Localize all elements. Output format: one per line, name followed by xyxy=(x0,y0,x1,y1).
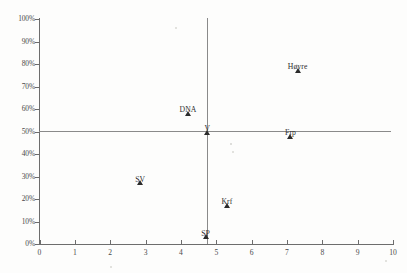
y-tick-label-wrap: 100% xyxy=(0,14,35,24)
x-tick-1 xyxy=(75,240,76,245)
paper-speckle xyxy=(230,143,232,145)
y-axis-tick-label: 60% xyxy=(3,104,35,113)
x-axis-tick-label: 0 xyxy=(32,248,48,257)
x-axis-tick-label: 8 xyxy=(314,248,330,257)
y-tick-50% xyxy=(35,132,40,133)
paper-speckle xyxy=(232,151,234,153)
y-tick-60% xyxy=(35,109,40,110)
x-axis-tick-label: 9 xyxy=(350,248,366,257)
y-axis-tick-label: 20% xyxy=(3,194,35,203)
paper-speckle xyxy=(110,266,112,268)
x-tick-8 xyxy=(322,240,323,245)
x-tick-6 xyxy=(252,240,253,245)
data-point-label: Høyre xyxy=(288,62,308,71)
x-axis-tick-label: 1 xyxy=(67,248,83,257)
y-tick-label-wrap: 10% xyxy=(0,217,35,227)
y-tick-label-wrap: 40% xyxy=(0,149,35,159)
x-tick-2 xyxy=(110,240,111,245)
y-tick-label-wrap: 0% xyxy=(0,239,35,249)
x-tick-5 xyxy=(216,240,217,245)
x-tick-7 xyxy=(287,240,288,245)
y-axis-tick-label: 70% xyxy=(3,82,35,91)
y-axis-tick-label: 90% xyxy=(3,37,35,46)
data-point-label: DNA xyxy=(180,105,197,114)
x-axis-tick-label: 7 xyxy=(279,248,295,257)
paper-speckle xyxy=(385,260,387,262)
paper-speckle xyxy=(175,27,177,29)
y-tick-label-wrap: 60% xyxy=(0,104,35,114)
x-tick-10 xyxy=(393,240,394,245)
y-tick-label-wrap: 80% xyxy=(0,59,35,69)
data-point-label: SV xyxy=(135,175,145,184)
data-point-label: V xyxy=(205,124,211,133)
x-tick-0 xyxy=(40,240,41,245)
scatter-plot: 0%10%20%30%40%50%60%70%80%90%100% 012345… xyxy=(0,0,407,273)
y-axis-tick-label: 0% xyxy=(3,239,35,248)
y-tick-80% xyxy=(35,64,40,65)
y-axis-tick-label: 100% xyxy=(3,14,35,23)
data-point-label: Krf xyxy=(221,197,232,206)
x-axis-tick-label: 3 xyxy=(138,248,154,257)
x-tick-9 xyxy=(358,240,359,245)
y-tick-label-wrap: 30% xyxy=(0,172,35,182)
y-tick-70% xyxy=(35,87,40,88)
y-tick-10% xyxy=(35,222,40,223)
y-tick-20% xyxy=(35,199,40,200)
y-axis-tick-label: 40% xyxy=(3,149,35,158)
x-axis-tick-label: 5 xyxy=(208,248,224,257)
y-axis-tick-label: 30% xyxy=(3,172,35,181)
chart-page: 0%10%20%30%40%50%60%70%80%90%100% 012345… xyxy=(0,0,407,273)
x-tick-4 xyxy=(181,240,182,245)
y-tick-label-wrap: 70% xyxy=(0,82,35,92)
y-axis-tick-label: 10% xyxy=(3,217,35,226)
y-tick-100% xyxy=(35,19,40,20)
y-tick-90% xyxy=(35,42,40,43)
data-point-label: Frp xyxy=(285,128,296,137)
y-tick-label-wrap: 20% xyxy=(0,194,35,204)
y-axis-tick-label: 50% xyxy=(3,127,35,136)
data-point-label: SP xyxy=(201,229,210,238)
x-axis-tick-label: 2 xyxy=(102,248,118,257)
x-axis-tick-label: 10 xyxy=(385,248,401,257)
y-axis-tick-label: 80% xyxy=(3,59,35,68)
y-tick-40% xyxy=(35,154,40,155)
x-axis-tick-label: 6 xyxy=(244,248,260,257)
reference-line-horizontal-50 xyxy=(39,131,391,132)
y-tick-label-wrap: 50% xyxy=(0,127,35,137)
x-tick-3 xyxy=(146,240,147,245)
y-tick-label-wrap: 90% xyxy=(0,37,35,47)
x-axis-tick-label: 4 xyxy=(173,248,189,257)
y-tick-30% xyxy=(35,177,40,178)
